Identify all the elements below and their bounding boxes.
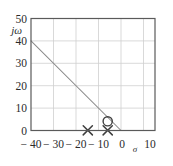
xtick-label-minus20: − 20 [66, 138, 87, 150]
plot-background [31, 19, 155, 131]
x-axis-label: σ [133, 144, 138, 154]
xtick-label-minus40: − 40 [21, 138, 42, 150]
ytick-label-20: 20 [16, 80, 28, 92]
xtick-label-zero: 0 [119, 138, 125, 150]
ytick-label-40: 40 [16, 35, 28, 47]
ytick-label-10: 10 [16, 102, 28, 114]
ytick-label-50: 50 [16, 13, 28, 25]
ytick-label-0: 0 [21, 125, 27, 137]
xtick-label-minus30: − 30 [43, 138, 64, 150]
ytick-label-30: 30 [16, 57, 28, 69]
xtick-label-ten: 10 [144, 138, 156, 150]
plot-canvas: 50 40 30 20 10 0 jω − 40 − 30 − 20 − 10 … [0, 0, 173, 166]
y-axis-label: jω [9, 24, 22, 36]
pole-zero-plot-figure: 50 40 30 20 10 0 jω − 40 − 30 − 20 − 10 … [0, 0, 173, 166]
xtick-label-minus10: − 10 [88, 138, 109, 150]
